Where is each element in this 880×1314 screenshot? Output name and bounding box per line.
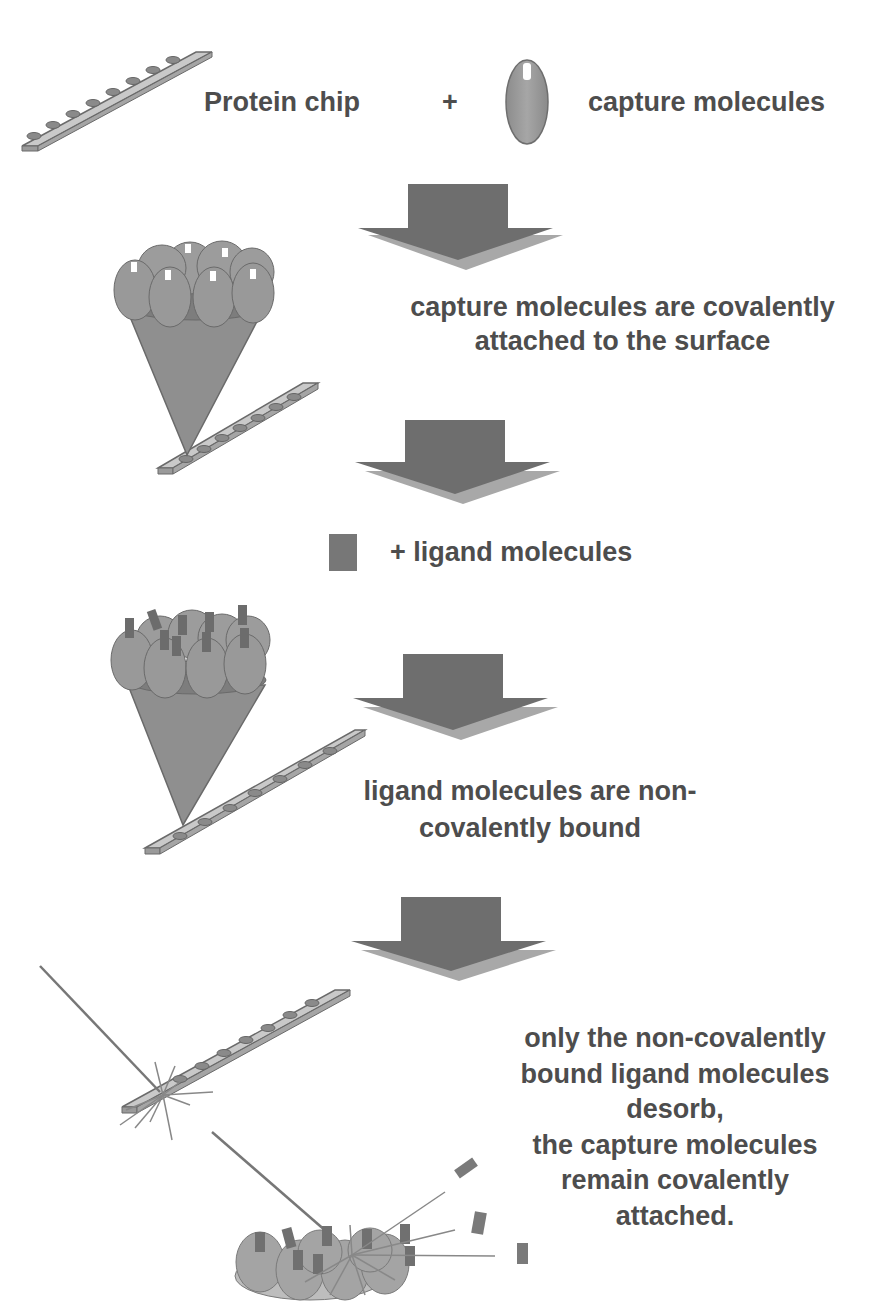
ligand-molecule-icon [329, 534, 357, 571]
cut-off-title: · · · · [60, 0, 125, 10]
laser-beam-line [40, 966, 160, 1092]
ligand-molecules-label: + ligand molecules [390, 536, 632, 569]
capture-molecule-icon [506, 60, 548, 144]
step5-caption-line3: desorb, [490, 1093, 860, 1126]
chip-with-bound-ligands-icon [111, 605, 365, 854]
step5-caption-line4: the capture molecules [490, 1129, 860, 1162]
step5-caption-line5: remain covalently [490, 1164, 860, 1197]
chip-with-capture-molecules-icon [114, 241, 318, 474]
protein-chip-label: Protein chip [204, 86, 360, 119]
desorbing-ligands-icon [212, 1132, 528, 1300]
down-arrow-icon-3 [353, 654, 558, 740]
plus-sign: + [442, 86, 458, 119]
step4-caption-line1: ligand molecules are non- [330, 775, 730, 808]
step2-caption-line1: capture molecules are covalently [385, 291, 860, 324]
capture-molecules-label: capture molecules [588, 86, 825, 119]
down-arrow-icon-4 [351, 897, 556, 981]
down-arrow-icon-1 [358, 184, 563, 270]
laser-desorption-chip-icon [40, 966, 350, 1140]
step2-caption-line2: attached to the surface [385, 325, 860, 358]
protein-chip-icon [22, 52, 212, 151]
step5-caption-line6: attached. [490, 1200, 860, 1233]
step4-caption-line2: covalently bound [330, 812, 730, 845]
step5-caption-line2: bound ligand molecules [490, 1058, 860, 1091]
down-arrow-icon-2 [355, 420, 560, 504]
step5-caption-line1: only the non-covalently [490, 1022, 860, 1055]
